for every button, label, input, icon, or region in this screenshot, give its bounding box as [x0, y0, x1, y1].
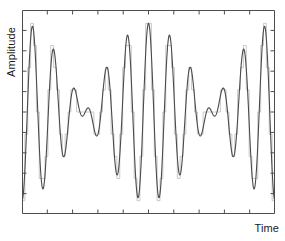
- y-axis-label-text: Amplitude: [5, 27, 17, 77]
- quantized-staircase-series: [22, 23, 275, 200]
- waveform-figure: Amplitude Time: [0, 0, 285, 241]
- y-axis-label: Amplitude: [0, 0, 22, 214]
- x-axis-label: Time: [0, 222, 279, 234]
- plot-svg: [22, 10, 275, 214]
- quantized-signal-line: [22, 23, 275, 200]
- axes-frame-box: [23, 11, 275, 214]
- analog-signal-series: [22, 23, 275, 200]
- x-axis-label-text: Time: [255, 222, 279, 234]
- axes-ticks: [23, 11, 275, 214]
- axes-frame: [23, 11, 275, 214]
- analog-signal-line: [22, 23, 275, 200]
- plot-area: [22, 10, 275, 214]
